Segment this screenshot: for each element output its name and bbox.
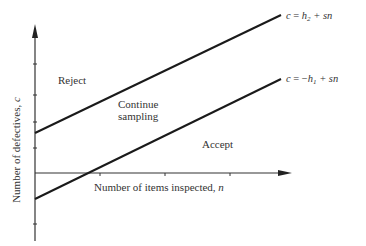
x-axis-label-text: Number of items inspected, [94,181,218,193]
y-axis-arrow-icon [32,24,38,38]
x-axis-variable: n [218,181,224,193]
reject-region-label: Reject [58,74,86,86]
x-axis-label: Number of items inspected, n [94,181,224,193]
lower-line-equation: c = −h1 + sn [286,73,338,88]
lower-eq-rest: + sn [317,73,339,84]
diagram-canvas [0,0,366,246]
upper-eq-rest: + sn [311,10,333,21]
continue-label-line2: sampling [118,110,158,122]
x-axis-arrow-icon [278,170,292,176]
x-axis [35,170,292,176]
upper-eq-equals: = [291,10,302,21]
lower-eq-equals: = [291,73,302,84]
y-axis-label-text: Number of defectives, [10,102,22,203]
accept-region-label: Accept [202,138,233,150]
y-axis-variable: c [10,97,22,102]
upper-line-equation: c = h2 + sn [286,10,332,25]
continue-label-line1: Continue [118,98,158,110]
continue-sampling-region-label: Continue sampling [118,98,158,122]
y-axis-label: Number of defectives, c [10,97,22,203]
